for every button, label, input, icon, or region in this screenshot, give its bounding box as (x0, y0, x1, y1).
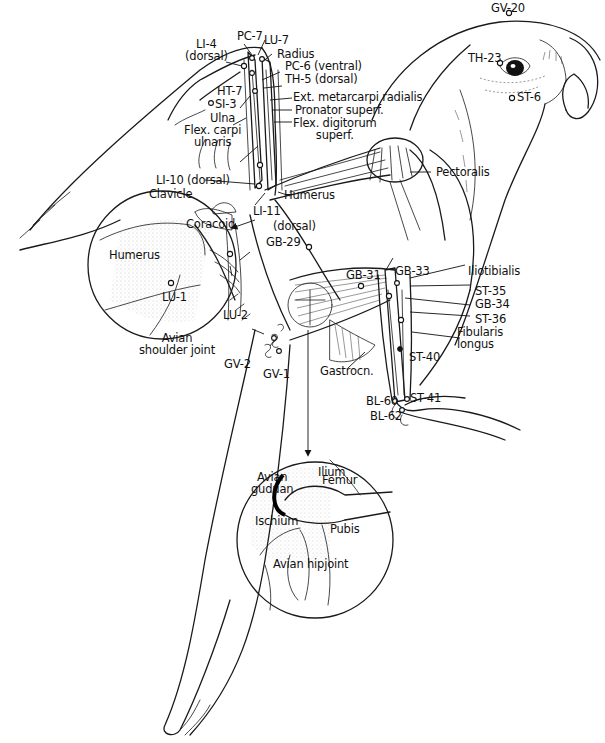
label-gastrocn: Gastrocn. (320, 365, 373, 377)
point-gb34 (386, 293, 391, 298)
point-si3 (209, 101, 214, 106)
point-st41 (405, 397, 410, 402)
label-pubis: Pubis (330, 523, 360, 535)
label-lu1: LU-1 (162, 291, 187, 303)
label-pectoralis: Pectoralis (436, 166, 490, 178)
label-pc6: PC-6 (ventral) (285, 60, 362, 72)
label-gv2: GV-2 (224, 358, 251, 370)
point-st40 (398, 347, 403, 352)
point-li4 (241, 63, 246, 68)
label-st40: ST-40 (409, 351, 440, 363)
label-gb34: GB-34 (475, 298, 510, 310)
parrot-acupuncture-diagram: PC-7 LU-7 LI-4 (dorsal) Radius PC-6 (ven… (0, 0, 605, 743)
point-li11 (256, 183, 261, 188)
shoulder-caption: Avian shoulder joint (139, 332, 215, 356)
label-gv20: GV-20 (491, 2, 525, 14)
label-ext-metacarpi: Ext. metarcarpi radialis (293, 91, 422, 103)
point-gb31 (358, 283, 363, 288)
label-th5: TH-5 (dorsal) (285, 73, 357, 85)
label-bl62: BL-62 (370, 410, 402, 422)
label-ischium: Ischium (255, 515, 298, 527)
point-pc7 (250, 56, 255, 61)
shoulder-inset (88, 191, 241, 339)
point-th5 (253, 89, 258, 94)
label-pc7: PC-7 (237, 30, 263, 42)
label-clavicle: Clavicle (149, 188, 192, 200)
label-si3: SI-3 (215, 98, 236, 110)
label-femur-display: Femur (322, 474, 357, 486)
point-lu7 (260, 57, 265, 62)
label-li4: LI-4 (dorsal) (185, 38, 228, 62)
label-st36: ST-36 (475, 313, 506, 325)
pectoral-region (367, 138, 445, 240)
point-gb29 (306, 244, 311, 249)
label-gv1: GV-1 (263, 368, 290, 380)
label-li11: LI-11 (253, 205, 281, 217)
label-flex-digitorum: Flex. digitorum superf. (293, 117, 377, 141)
label-lu7: LU-7 (264, 34, 289, 46)
point-gv2 (272, 336, 277, 341)
label-ht7: HT-7 (217, 85, 242, 97)
point-st6 (509, 95, 514, 100)
label-st35: ST-35 (475, 285, 506, 297)
point-li10 (257, 162, 262, 167)
point-lu1 (168, 280, 173, 285)
hip-caption: Avian hipjoint (273, 558, 348, 570)
label-gb33: GB-33 (395, 265, 430, 277)
label-st41: ST-41 (410, 392, 441, 404)
point-st36 (398, 317, 403, 322)
label-li10: LI-10 (dorsal) (156, 174, 230, 186)
label-st6: ST-6 (517, 91, 541, 103)
point-ht7 (250, 71, 255, 76)
label-flex-carpi: Flex. carpi ulnaris (184, 124, 241, 148)
point-gv1 (277, 349, 282, 354)
label-iliotibialis: Iliotibialis (468, 265, 520, 277)
label-gb31: GB-31 (346, 269, 381, 281)
label-coracoid: Coracoid (186, 218, 235, 230)
point-st35 (395, 281, 400, 286)
label-gb29: GB-29 (266, 236, 301, 248)
label-th23: TH-23 (468, 52, 501, 64)
label-fibularis: Fibularis longus (457, 326, 503, 350)
label-humerus-wing: Humerus (284, 189, 335, 201)
label-dorsal: (dorsal) (273, 220, 316, 232)
label-humerus-inset: Humerus (109, 249, 160, 261)
label-bl60: BL-60 (366, 395, 398, 407)
label-avian-guduan: Avian guduan (251, 471, 293, 495)
label-pronator: Pronator superf. (295, 104, 384, 116)
point-lu2 (227, 251, 232, 256)
label-lu2: LU-2 (223, 309, 248, 321)
